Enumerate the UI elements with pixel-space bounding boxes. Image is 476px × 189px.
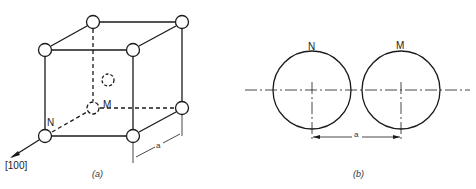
- caption-b: (b): [353, 170, 364, 179]
- atom-n: [39, 130, 52, 143]
- caption-a: (a): [92, 170, 103, 179]
- label-m-projection: M: [396, 41, 404, 51]
- diagram-canvas: [0, 0, 476, 189]
- atom-face-center: [102, 74, 114, 86]
- atom-bottom-back-right: [176, 102, 189, 115]
- atom-top-back-left: [87, 16, 100, 29]
- edge-top-right: [139, 26, 176, 46]
- dimension-a-cube: a: [156, 142, 160, 150]
- dim-line-a2: [163, 134, 180, 143]
- edge-bottom-right: [139, 112, 176, 132]
- dim-arrow-right: [393, 135, 400, 139]
- dim-arrow-left: [313, 135, 320, 139]
- label-m-cube: M: [103, 100, 111, 110]
- atom-top-back-right: [176, 16, 189, 29]
- direction-label: [100]: [5, 161, 27, 171]
- atom-top-front-right: [127, 44, 140, 57]
- atom-top-front-left: [39, 44, 52, 57]
- dimension-a-projection: a: [354, 131, 358, 139]
- label-n-cube: N: [47, 118, 54, 128]
- projection-diagram: [245, 51, 470, 140]
- cube-diagram: [10, 16, 189, 164]
- hidden-edge-diagonal: [52, 112, 87, 132]
- atom-m: [87, 102, 99, 114]
- atom-bottom-front-right: [127, 130, 140, 143]
- label-n-projection: N: [308, 42, 315, 52]
- dim-line-a1: [136, 147, 155, 157]
- direction-arrow-head: [10, 151, 20, 158]
- edge-top-left: [51, 26, 87, 46]
